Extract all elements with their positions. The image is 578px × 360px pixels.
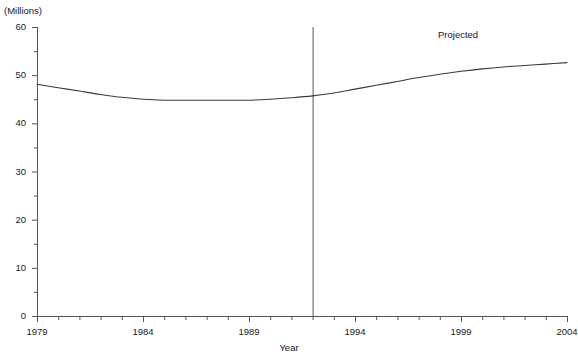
x-tick-label: 1994 xyxy=(335,326,375,337)
y-tick-label: 30 xyxy=(0,166,26,177)
x-tick-label: 1989 xyxy=(229,326,269,337)
y-tick-label: 40 xyxy=(0,117,26,128)
employment-series-line xyxy=(37,63,567,101)
chart-container: (Millions) Projected Year 0102030405060 … xyxy=(0,0,578,360)
x-tick-label: 1984 xyxy=(123,326,163,337)
x-tick-label: 1979 xyxy=(17,326,57,337)
x-tick-label: 1999 xyxy=(441,326,481,337)
y-tick-label: 50 xyxy=(0,69,26,80)
x-tick-label: 2004 xyxy=(547,326,578,337)
y-tick-label: 60 xyxy=(0,21,26,32)
y-tick-label: 10 xyxy=(0,262,26,273)
y-tick-label: 0 xyxy=(0,310,26,321)
y-tick-label: 20 xyxy=(0,214,26,225)
chart-plot-area xyxy=(0,0,578,360)
y-axis-ticks xyxy=(32,28,37,317)
axis-lines xyxy=(37,27,567,317)
